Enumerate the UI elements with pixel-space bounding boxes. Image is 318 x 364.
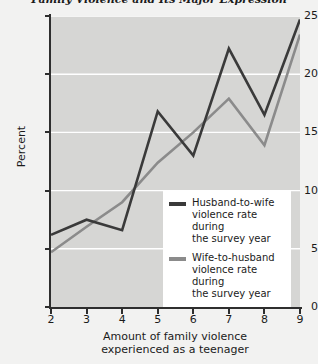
x-tick-mark [192, 309, 194, 314]
y-tick-label: 15 [274, 125, 318, 138]
y-tick-mark [45, 190, 50, 192]
x-tick-label: 7 [219, 313, 239, 326]
chart-legend: Husband-to-wife violence rate during the… [163, 190, 291, 307]
x-tick-label: 6 [183, 313, 203, 326]
chart-figure: Family Violence and Its Major Expression… [0, 0, 318, 364]
legend-swatch-wife-to-husband [169, 257, 186, 261]
legend-label-wife-to-husband: Wife-to-husband violence rate during the… [192, 252, 284, 300]
x-tick-mark [157, 309, 159, 314]
x-tick-mark [228, 309, 230, 314]
legend-label-line2: violence rate during [192, 209, 257, 232]
x-tick-label: 2 [41, 313, 61, 326]
legend-label-line1: Wife-to-husband [192, 252, 275, 263]
x-tick-mark [299, 309, 301, 314]
x-tick-label: 9 [290, 313, 310, 326]
y-tick-label: 20 [274, 67, 318, 80]
x-tick-label: 5 [148, 313, 168, 326]
x-tick-mark [86, 309, 88, 314]
y-tick-mark [45, 248, 50, 250]
legend-label-line3: the survey year [192, 233, 271, 244]
x-axis-label: Amount of family violence experienced as… [40, 330, 310, 356]
legend-label-line1: Husband-to-wife [192, 197, 274, 208]
x-tick-label: 4 [112, 313, 132, 326]
chart-title-strip: Family Violence and Its Major Expression [0, 0, 318, 7]
y-axis-label: Percent [15, 107, 28, 187]
legend-label-line2: violence rate during [192, 264, 257, 287]
x-axis-label-line2: experienced as a teenager [40, 343, 310, 356]
legend-label-husband-to-wife: Husband-to-wife violence rate during the… [192, 197, 284, 245]
x-tick-mark [50, 309, 52, 314]
x-tick-label: 3 [77, 313, 97, 326]
y-axis-spine [49, 14, 51, 309]
y-tick-mark [45, 73, 50, 75]
x-axis-label-line1: Amount of family violence [103, 330, 247, 343]
y-tick-mark [45, 306, 50, 308]
legend-item-wife-to-husband: Wife-to-husband violence rate during the… [169, 252, 284, 300]
x-tick-mark [121, 309, 123, 314]
y-tick-mark [45, 15, 50, 17]
y-tick-mark [45, 131, 50, 133]
x-tick-label: 8 [254, 313, 274, 326]
legend-swatch-husband-to-wife [169, 202, 186, 206]
x-tick-mark [263, 309, 265, 314]
chart-title: Family Violence and Its Major Expression [31, 0, 287, 6]
legend-item-husband-to-wife: Husband-to-wife violence rate during the… [169, 197, 284, 245]
legend-label-line3: the survey year [192, 288, 271, 299]
y-tick-label: 25 [274, 9, 318, 22]
